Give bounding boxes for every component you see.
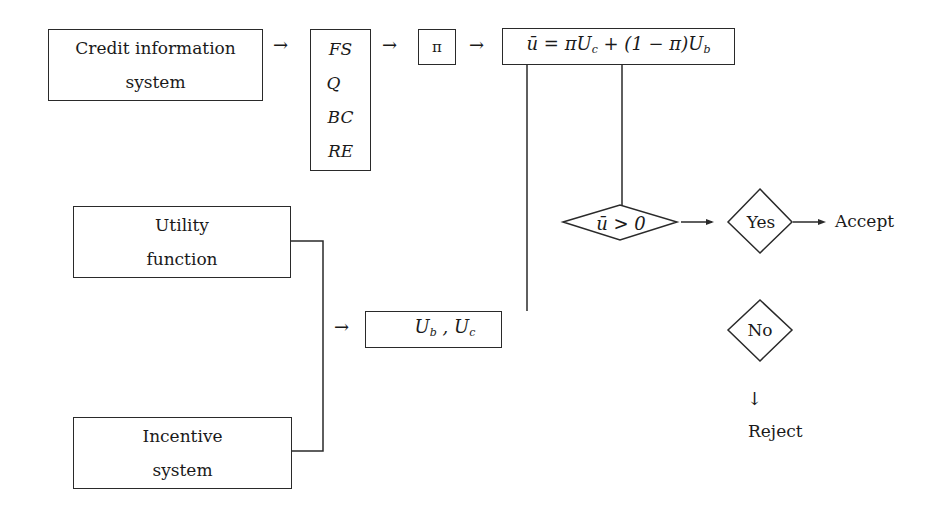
probability-label: π: [432, 30, 442, 64]
credit-info-line1: Credit information: [75, 31, 236, 65]
arrow-right-icon: →: [469, 34, 484, 55]
utility-function-line2: function: [146, 242, 217, 276]
incentive-system-box: Incentive system: [73, 417, 292, 489]
arrow-right-icon: →: [382, 34, 397, 55]
utility-u1: U: [415, 316, 430, 337]
accept-outcome: Accept: [835, 211, 894, 231]
arrow-right-icon: →: [334, 316, 349, 337]
utility-function-line1: Utility: [155, 208, 209, 242]
utility-s2: c: [469, 326, 475, 339]
formula-eq: = πU: [538, 33, 592, 54]
reject-outcome: Reject: [748, 421, 803, 441]
utility-s1: b: [430, 326, 437, 339]
utility-sep: ,: [437, 316, 454, 337]
credit-information-system-box: Credit information system: [48, 29, 263, 101]
utilities-box: Ub , Uc: [365, 311, 502, 348]
arrow-head-icon: [706, 219, 714, 225]
arrow-down-icon: ↓: [747, 388, 762, 409]
factor-q: Q: [327, 66, 341, 100]
factor-fs: FS: [329, 32, 352, 66]
no-label: No: [747, 320, 772, 340]
expected-utility-box: ū = πUc + (1 − π)Ub: [502, 28, 735, 65]
factor-re: RE: [328, 134, 353, 168]
incentive-system-line1: Incentive: [142, 419, 222, 453]
incentive-system-line2: system: [152, 453, 212, 487]
arrow-head-icon: [818, 219, 826, 225]
formula-lhs: ū: [527, 33, 539, 54]
decision-label: ū > 0: [596, 213, 646, 234]
yes-label: Yes: [747, 212, 776, 232]
utility-u2: U: [454, 316, 469, 337]
probability-box: π: [418, 29, 456, 65]
credit-info-line2: system: [125, 65, 185, 99]
bracket-connector: [290, 241, 323, 451]
utility-function-box: Utility function: [73, 206, 291, 278]
factor-bc: BC: [328, 100, 354, 134]
factors-box: FS Q BC RE: [310, 29, 371, 171]
formula-mid: + (1 − π)U: [598, 33, 704, 54]
formula-sub-b: b: [703, 43, 710, 56]
arrow-right-icon: →: [273, 34, 288, 55]
